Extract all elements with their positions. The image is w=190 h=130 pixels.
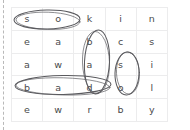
grid-cell-r1c4[interactable]: i bbox=[106, 8, 137, 31]
grid-cell-r3c2[interactable]: w bbox=[43, 54, 74, 77]
grid-cell-r3c3[interactable]: a bbox=[74, 54, 105, 77]
grid-cell-r1c2[interactable]: o bbox=[43, 8, 74, 31]
letter-grid: s o k i n e a b c s a w a s i b a d o l … bbox=[11, 7, 168, 122]
grid-cell-r5c3[interactable]: r bbox=[74, 99, 105, 122]
grid-cell-r4c2[interactable]: a bbox=[43, 76, 74, 99]
grid-cell-r4c5[interactable]: l bbox=[137, 76, 168, 99]
grid-cell-r5c1[interactable]: e bbox=[12, 99, 43, 122]
grid-cell-r2c5[interactable]: s bbox=[137, 31, 168, 54]
grid-cell-r5c2[interactable]: w bbox=[43, 99, 74, 122]
grid-cell-r5c5[interactable]: y bbox=[137, 99, 168, 122]
grid-cell-r1c1[interactable]: s bbox=[12, 8, 43, 31]
grid-cell-r2c3[interactable]: b bbox=[74, 31, 105, 54]
grid-cell-r3c4[interactable]: s bbox=[106, 54, 137, 77]
word-search-page: s o k i n e a b c s a w a s i b a d o l … bbox=[0, 0, 190, 130]
grid-cell-r3c5[interactable]: i bbox=[137, 54, 168, 77]
grid-cell-r2c4[interactable]: c bbox=[106, 31, 137, 54]
grid-cell-r4c4[interactable]: o bbox=[106, 76, 137, 99]
grid-cell-r2c2[interactable]: a bbox=[43, 31, 74, 54]
grid-cell-r2c1[interactable]: e bbox=[12, 31, 43, 54]
grid-cell-r1c3[interactable]: k bbox=[74, 8, 105, 31]
grid-cell-r3c1[interactable]: a bbox=[12, 54, 43, 77]
grid-cell-r1c5[interactable]: n bbox=[137, 8, 168, 31]
grid-cell-r4c1[interactable]: b bbox=[12, 76, 43, 99]
grid-cell-r4c3[interactable]: d bbox=[74, 76, 105, 99]
grid-cell-r5c4[interactable]: b bbox=[106, 99, 137, 122]
dashed-cut-line bbox=[3, 0, 4, 130]
